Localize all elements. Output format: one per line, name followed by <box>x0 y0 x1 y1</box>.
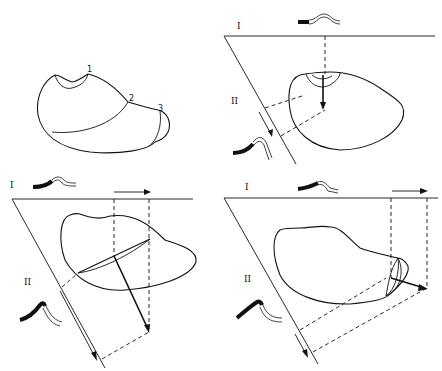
waveform-icon <box>318 181 338 190</box>
waveform-icon <box>309 14 340 21</box>
waveform-icon <box>20 303 45 320</box>
organ-outline <box>61 214 196 291</box>
projection-line <box>62 273 78 287</box>
plane-label-i: I <box>10 180 14 190</box>
projection-line <box>300 278 386 330</box>
projection-line <box>281 110 325 136</box>
organ-outline <box>274 226 408 304</box>
waveform-icon <box>45 304 62 322</box>
plane-label-ii: II <box>231 96 239 106</box>
waveform-icon <box>253 138 272 159</box>
panel-top-right: I II <box>224 14 435 164</box>
plane-label-i: I <box>237 21 241 31</box>
label-3: 3 <box>158 104 163 113</box>
label-1: 1 <box>87 65 92 74</box>
panel-bottom-left: I II <box>10 177 196 368</box>
projection-arrow <box>60 291 95 357</box>
arrowhead-icon <box>320 102 326 110</box>
panel-bottom-right: I II <box>224 181 438 364</box>
region-3-boundary <box>148 111 161 147</box>
waveform-icon <box>33 181 52 187</box>
waveform-icon <box>298 183 318 189</box>
arrowhead-icon <box>144 324 150 333</box>
waveform-icon <box>233 144 253 153</box>
waveform-icon <box>309 17 340 24</box>
waveform-icon <box>43 308 60 326</box>
projection-line <box>313 288 427 352</box>
projection-line <box>102 332 149 359</box>
region-boundary <box>312 75 332 79</box>
waveform-icon <box>260 307 282 322</box>
diagram-svg: 1 2 3 I II I II <box>0 0 442 371</box>
vector-arrow <box>114 256 147 327</box>
plane-label-ii: II <box>244 274 252 284</box>
organ-outline <box>37 74 169 153</box>
plane-label-ii: II <box>24 277 32 287</box>
arrowhead-icon <box>144 189 151 195</box>
plane-ii-axis <box>224 198 318 364</box>
arrowhead-icon <box>420 188 428 194</box>
arrowhead-icon <box>91 351 97 361</box>
projection-line <box>265 95 305 108</box>
waveform-icon <box>237 302 262 318</box>
panel-top-left: 1 2 3 <box>37 65 169 153</box>
region-boundary <box>386 258 398 296</box>
arrowhead-icon <box>302 349 308 358</box>
region-2-boundary <box>52 102 128 133</box>
organ-outline <box>289 72 404 150</box>
label-2: 2 <box>129 94 134 103</box>
plane-label-i: I <box>245 182 249 192</box>
arrowhead-icon <box>418 284 428 291</box>
figure-canvas: 1 2 3 I II I II <box>0 0 442 371</box>
